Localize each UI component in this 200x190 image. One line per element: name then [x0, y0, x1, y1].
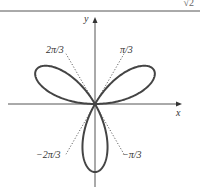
ray-label-neg-2pi-over-3: −2π/3 [36, 150, 61, 160]
rose-diagram [0, 0, 200, 190]
ray-label-neg-pi-over-3: −π/3 [122, 150, 142, 160]
ray-label-pi-over-3: π/3 [120, 45, 133, 55]
polar-rose-figure: √2 y x π/3 2π/3 −2π/3 −π/3 [0, 0, 200, 190]
x-axis-arrow-icon [176, 102, 182, 107]
y-axis-label: y [84, 14, 88, 24]
x-axis-label: x [176, 108, 180, 118]
y-axis-arrow-icon [93, 17, 98, 23]
ray-label-2pi-over-3: 2π/3 [46, 45, 64, 55]
